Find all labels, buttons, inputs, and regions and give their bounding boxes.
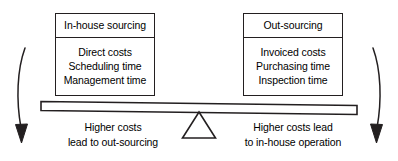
panel-items-in-house-sourcing: Direct costs Scheduling time Management … <box>56 38 154 87</box>
caption-right: Higher costs lead to in-house operation <box>218 120 368 149</box>
curved-arrow-down-right-icon <box>371 48 383 143</box>
panel-title-in-house-sourcing: In-house sourcing <box>56 14 154 38</box>
panel-item: Management time <box>56 73 154 87</box>
panel-item: Inspection time <box>244 73 342 87</box>
panel-out-sourcing: Out-sourcing Invoiced costs Purchasing t… <box>243 13 343 96</box>
panel-item: Purchasing time <box>244 59 342 73</box>
panel-item: Scheduling time <box>56 59 154 73</box>
caption-right-line-2: to in-house operation <box>218 135 368 150</box>
caption-left-line-1: Higher costs <box>43 120 183 135</box>
fulcrum-triangle <box>183 112 216 138</box>
panel-item: Direct costs <box>56 45 154 59</box>
caption-left-line-2: lead to out-sourcing <box>43 135 183 150</box>
panel-item: Invoiced costs <box>244 45 342 59</box>
curved-arrow-down-left-icon <box>16 48 28 143</box>
balance-diagram: In-house sourcing Direct costs Schedulin… <box>0 0 398 161</box>
panel-items-out-sourcing: Invoiced costs Purchasing time Inspectio… <box>244 38 342 87</box>
panel-in-house-sourcing: In-house sourcing Direct costs Schedulin… <box>55 13 155 96</box>
panel-title-out-sourcing: Out-sourcing <box>244 14 342 38</box>
caption-left: Higher costs lead to out-sourcing <box>43 120 183 149</box>
caption-right-line-1: Higher costs lead <box>218 120 368 135</box>
